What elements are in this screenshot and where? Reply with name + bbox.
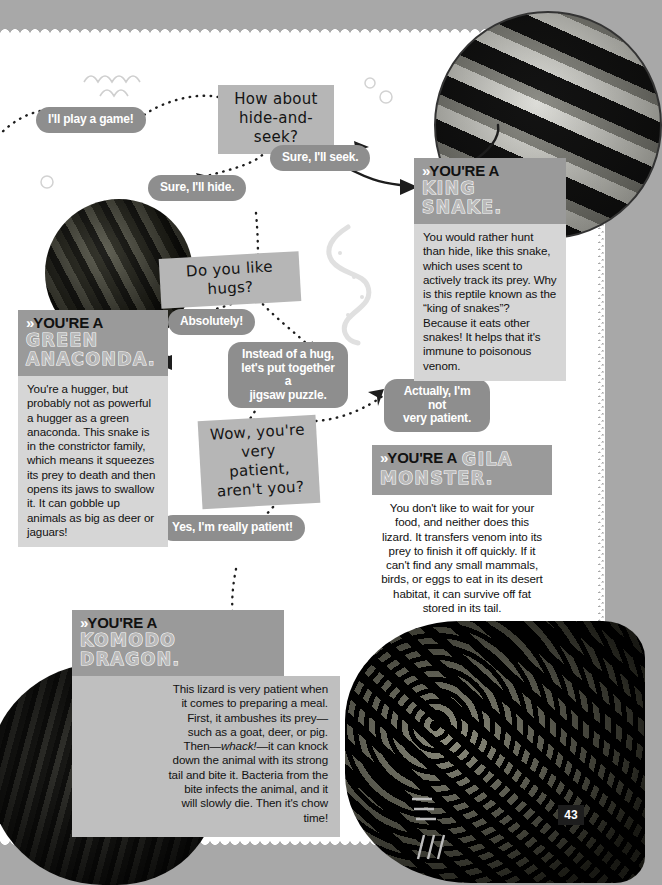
card-king-snake-prefix-line: »YOU'RE A: [422, 163, 558, 179]
card-king-snake-prefix: YOU'RE A: [429, 162, 499, 179]
card-green-anaconda-prefix-line: »YOU'RE A: [26, 315, 160, 331]
card-green-anaconda-prefix: YOU'RE A: [33, 314, 103, 331]
connector-hugs-to-jigsaw: [258, 299, 310, 347]
card-gila-monster: »YOU'RE AGILA MONSTER. You don't like to…: [372, 445, 552, 623]
card-komodo-dragon-header: »YOU'RE A KOMODO DRAGON.: [72, 610, 284, 676]
card-gila-monster-species: MONSTER.: [380, 469, 494, 488]
card-king-snake-species: KING SNAKE.: [422, 179, 558, 217]
reply-really-patient[interactable]: Yes, I'm really patient!: [160, 515, 305, 541]
reply-ill-hide[interactable]: Sure, I'll hide.: [148, 175, 246, 201]
reply-ill-seek[interactable]: Sure, I'll seek.: [270, 145, 370, 171]
card-komodo-dragon: »YOU'RE A KOMODO DRAGON. This lizard is …: [72, 610, 340, 837]
card-green-anaconda-header: »YOU'RE A GREEN ANACONDA.: [18, 310, 168, 376]
card-komodo-dragon-prefix: YOU'RE A: [87, 614, 157, 631]
card-king-snake-body: You would rather hunt than hide, like th…: [414, 224, 566, 381]
chevron-right-double-icon: »: [26, 314, 31, 331]
card-gila-monster-prefix-line: »YOU'RE AGILA: [380, 450, 544, 469]
card-komodo-dragon-prefix-line: »YOU'RE A: [80, 615, 276, 631]
reply-jigsaw-puzzle[interactable]: Instead of a hug, let's put together a j…: [228, 342, 348, 408]
prompt-very-patient[interactable]: Wow, you're very patient, aren't you?: [198, 415, 321, 509]
card-gila-monster-body: You don't like to wait for your food, an…: [372, 495, 552, 623]
card-king-snake-header: »YOU'RE A KING SNAKE.: [414, 158, 566, 224]
card-gila-monster-prefix: YOU'RE A: [387, 449, 457, 466]
card-gila-monster-header: »YOU'RE AGILA MONSTER.: [372, 445, 552, 495]
card-green-anaconda-body: You're a hugger, but probably not as pow…: [18, 376, 168, 547]
prompt-hide-and-seek[interactable]: How about hide-and-seek?: [218, 85, 334, 154]
card-gila-monster-species-word1: GILA: [462, 450, 513, 469]
card-green-anaconda-species: GREEN ANACONDA.: [26, 331, 156, 369]
connector-prompt-to-play-a-game: [140, 96, 218, 119]
card-komodo-dragon-body-emphasis: whack!: [221, 739, 256, 752]
reply-play-a-game[interactable]: I'll play a game!: [36, 107, 146, 133]
chevron-right-double-icon: »: [380, 449, 385, 466]
reply-not-very-patient[interactable]: Actually, I'm not very patient.: [384, 379, 490, 432]
chevron-right-double-icon: »: [422, 162, 427, 179]
page-number: 43: [558, 805, 584, 825]
magazine-page: How about hide-and-seek? Do you like hug…: [0, 33, 598, 841]
prompt-like-hugs[interactable]: Do you like hugs?: [159, 251, 302, 309]
chevron-right-double-icon: »: [80, 614, 85, 631]
card-king-snake: »YOU'RE A KING SNAKE. You would rather h…: [414, 158, 566, 381]
card-komodo-dragon-body: This lizard is very patient when it come…: [72, 676, 340, 837]
reply-absolutely[interactable]: Absolutely!: [168, 309, 255, 335]
card-komodo-dragon-species: KOMODO DRAGON.: [80, 631, 276, 669]
card-green-anaconda: »YOU'RE A GREEN ANACONDA. You're a hugge…: [18, 310, 168, 547]
